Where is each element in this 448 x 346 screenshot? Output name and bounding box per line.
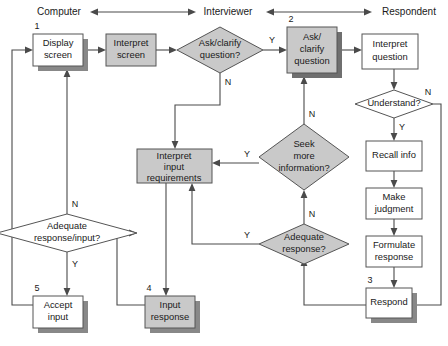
header-row: Computer Interviewer Respondent [37,6,436,17]
node-display-screen-line2: screen [44,49,72,60]
edge-understand-yes [391,118,398,141]
node-input-response-line2: response [151,311,190,322]
node-interpret-screen[interactable]: Interpret screen [106,34,156,66]
edge-accept-input-to-display-screen [12,47,33,305]
node-interpret-input-line1: Interpret [157,150,192,161]
header-computer-label: Computer [37,6,82,17]
node-ask-clarify-question-q[interactable]: Ask/clarify question? [177,27,263,73]
branch-label-seek-more-yes: Y [244,149,250,159]
node-ask-clarify-q-line2: question? [200,50,240,60]
branch-label-ask-clarify-yes: Y [269,35,275,45]
node-interpret-input-line2: input [164,161,185,172]
node-ask-clarify-line1: Ask/ [303,31,322,42]
node-formulate-response[interactable]: Formulate response [366,236,422,267]
node-understand-q[interactable]: Understand? [355,90,433,118]
node-respond[interactable]: Respond 3 [366,275,417,323]
flowchart-canvas: Computer Interviewer Respondent [0,0,448,346]
step-number-2: 2 [288,14,293,24]
node-formulate-response-line1: Formulate [373,239,415,250]
node-interpret-screen-line2: screen [117,49,145,60]
node-accept-input-line1: Accept [44,299,73,310]
edge-seek-more-no [301,76,308,124]
node-recall-info[interactable]: Recall info [366,141,422,171]
edge-adequate-response-no [301,190,308,224]
header-arrow-interviewer-respondent [266,9,372,16]
edge-make-judgment-to-formulate [391,219,398,236]
branch-label-adequate-response-yes: Y [244,230,250,240]
node-formulate-response-line2: response [375,251,414,262]
node-seek-more-information-q[interactable]: Seek more information? [259,124,349,190]
node-understand-q-label: Understand? [367,98,420,108]
node-adequate-response-line1: Adequate [284,232,324,242]
node-interpret-question-line2: question [372,51,407,62]
node-make-judgment-line1: Make [383,191,406,202]
edge-ask-clarify-q-yes [263,47,287,54]
edge-interpret-screen-to-ask-clarify-q [156,47,177,54]
branch-label-adequate-input-yes: Y [72,259,78,269]
branch-label-understand-yes: Y [399,122,405,132]
node-interpret-screen-line1: Interpret [114,37,149,48]
node-seek-more-line1: Seek [293,139,315,149]
branch-label-understand-no: N [425,87,432,97]
header-arrow-computer-interviewer [90,9,196,16]
node-seek-more-line2: more [293,151,314,161]
node-respond-label: Respond [370,296,408,307]
node-input-response[interactable]: Input response 4 [145,283,200,333]
node-ask-clarify-line3: question [294,55,329,66]
node-ask-clarify-q-line1: Ask/clarify [199,38,242,48]
edge-recall-to-make-judgment [391,171,398,188]
node-accept-input-line2: input [48,311,69,322]
edge-ask-clarify-q-no [172,73,220,149]
edge-seek-more-yes [212,160,259,167]
flowchart-svg: Computer Interviewer Respondent [0,0,448,346]
step-number-5: 5 [34,283,39,293]
node-adequate-response-input-line2: response/input? [34,233,100,243]
branch-label-ask-clarify-no: N [225,77,232,87]
node-input-response-line1: Input [160,299,181,310]
step-number-1: 1 [34,21,39,31]
branch-label-adequate-response-no: N [309,209,316,219]
edge-formulate-to-respond [391,267,398,288]
node-seek-more-line3: information? [278,163,329,173]
node-accept-input[interactable]: Accept input 5 [33,283,88,333]
node-ask-clarify-question[interactable]: Ask/ clarify question 2 [287,14,342,78]
step-number-3: 3 [367,275,372,285]
node-interpret-input-line3: requirements [147,172,202,183]
edge-interpret-input-to-input-response [163,183,170,296]
node-ask-clarify-line2: clarify [300,43,325,54]
node-interpret-input-requirements[interactable]: Interpret input requirements [137,149,212,183]
branch-label-seek-more-no: N [309,109,316,119]
edge-respond-to-adequate-response-q [301,258,366,305]
node-make-judgment[interactable]: Make judgment [366,188,422,219]
node-adequate-response-input-line1: Adequate [47,221,87,231]
step-number-4: 4 [146,283,151,293]
header-interviewer-label: Interviewer [204,6,254,17]
node-recall-info-label: Recall info [372,149,416,160]
node-display-screen-line1: Display [43,37,74,48]
node-interpret-question[interactable]: Interpret question [362,34,418,69]
node-interpret-question-line1: Interpret [373,38,408,49]
edge-input-response-to-adequate-response-input-q [117,230,145,305]
edge-interpret-question-to-understand [391,69,398,90]
header-respondent-label: Respondent [382,6,436,17]
edge-adequate-response-input-yes [64,252,71,296]
edge-adequate-response-input-no [64,69,71,214]
branch-label-adequate-input-no: N [72,199,79,209]
node-adequate-response-q[interactable]: Adequate response? [259,224,349,264]
node-adequate-response-line2: response? [282,244,325,254]
node-make-judgment-line2: judgment [374,203,414,214]
node-display-screen[interactable]: Display screen 1 [33,21,88,71]
